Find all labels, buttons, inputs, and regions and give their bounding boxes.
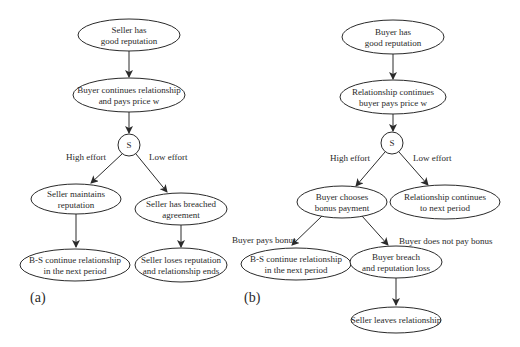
svg-text:S: S [126,140,131,150]
node-seller-good-reputation: Seller has good reputation [78,19,180,51]
edge-b-not-pay-bonus [362,216,388,245]
svg-text:reputation: reputation [58,200,95,210]
node-seller-loses-reputation: Seller loses reputation and relationship… [135,248,227,282]
svg-text:Seller loses reputation: Seller loses reputation [141,255,221,265]
panel-label-b: (b) [244,290,261,306]
svg-text:and pays price w: and pays price w [99,96,160,106]
node-seller-leaves: Seller leaves relationship [351,307,442,333]
label-b-buyer-pays-bonus: Buyer pays bonus [232,235,297,245]
node-relationship-next-period: Relationship continues to next period [390,185,500,219]
node-buyer-chooses-bonus: Buyer chooses bonus payment [297,186,387,218]
label-a-high-effort: High effort [66,152,107,162]
svg-text:Seller leaves relationship: Seller leaves relationship [351,315,442,325]
svg-text:Buyer breach: Buyer breach [372,252,421,262]
svg-text:Relationship continues: Relationship continues [352,87,435,97]
label-b-low-effort: Low effort [413,153,452,163]
svg-text:Seller has: Seller has [111,25,147,35]
svg-text:good reputation: good reputation [101,36,158,46]
svg-text:to next period: to next period [420,203,470,213]
node-bs-continue-a: B-S continue relationship in the next pe… [20,249,130,281]
label-b-high-effort: High effort [330,153,371,163]
svg-text:good reputation: good reputation [365,38,422,48]
node-buyer-continues-relationship: Buyer continues relationship and pays pr… [73,78,185,112]
svg-text:agreement: agreement [162,210,200,220]
svg-text:buyer pays price w: buyer pays price w [359,98,428,108]
node-s-choice-b: S [381,132,403,154]
node-buyer-good-reputation: Buyer has good reputation [342,20,444,54]
svg-text:Buyer continues relationship: Buyer continues relationship [77,85,181,95]
reputation-game-trees: Seller has good reputation Buyer continu… [0,0,520,347]
svg-text:bonus payment: bonus payment [315,203,370,213]
svg-text:Seller maintains: Seller maintains [47,189,106,199]
edge-b-pays-bonus [292,216,322,245]
panel-a: Seller has good reputation Buyer continu… [20,19,227,306]
svg-text:and reputation loss: and reputation loss [362,263,430,273]
svg-text:B-S continue relationship: B-S continue relationship [29,255,121,265]
node-seller-breached: Seller has breached agreement [135,193,227,225]
svg-text:Relationship continues: Relationship continues [404,192,487,202]
svg-text:Seller has breached: Seller has breached [146,199,216,209]
svg-text:Buyer chooses: Buyer chooses [316,192,369,202]
svg-text:B-S continue relationship: B-S continue relationship [250,254,342,264]
label-a-low-effort: Low effort [149,152,188,162]
node-relationship-continues-pays: Relationship continues buyer pays price … [340,80,446,114]
panel-b: Buyer has good reputation Relationship c… [232,20,500,333]
svg-text:in the next period: in the next period [264,265,328,275]
node-bs-continue-b: B-S continue relationship in the next pe… [241,248,351,280]
svg-text:Buyer has: Buyer has [375,27,412,37]
svg-text:in the next period: in the next period [43,266,107,276]
svg-text:S: S [389,138,394,148]
node-buyer-breach: Buyer breach and reputation loss [350,246,442,278]
panel-label-a: (a) [30,290,46,306]
node-seller-maintains-reputation: Seller maintains reputation [31,184,121,214]
node-s-choice: S [118,134,140,156]
label-b-buyer-not-pay-bonus: Buyer does not pay bonus [399,236,493,246]
svg-text:and relationship ends: and relationship ends [143,266,220,276]
